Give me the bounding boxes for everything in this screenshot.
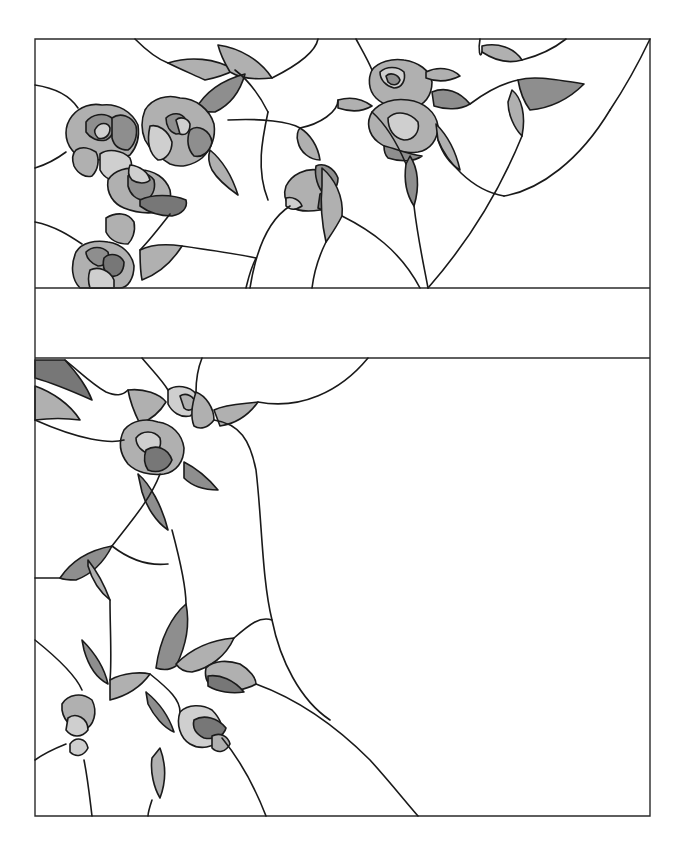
glass-piece: [95, 124, 110, 139]
lead-line: [110, 600, 111, 680]
stained-glass-artwork: [0, 0, 684, 855]
glass-piece: [112, 115, 137, 150]
glass-piece: [70, 739, 88, 755]
glass-piece: [386, 74, 400, 85]
